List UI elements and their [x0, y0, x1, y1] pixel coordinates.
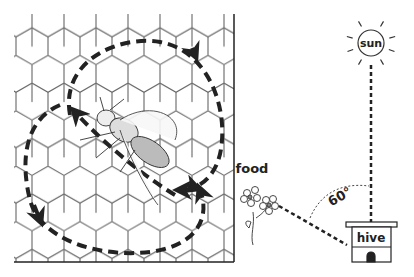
sun-label: sun	[360, 37, 382, 50]
waggle-dance-diagram: sun food 60° hive	[0, 0, 414, 277]
flower-icon	[241, 187, 279, 246]
food-label: food	[236, 161, 269, 176]
angle-label: 60°	[325, 184, 354, 209]
food-direction-line	[279, 206, 347, 245]
hive-label: hive	[357, 231, 386, 245]
